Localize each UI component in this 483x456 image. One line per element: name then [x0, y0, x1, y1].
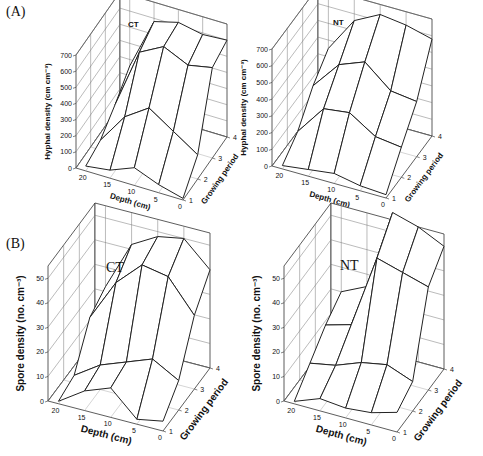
depth-tick-label: 15 — [103, 181, 111, 188]
z-tick-label: 0 — [68, 165, 72, 172]
depth-tick-label: 5 — [132, 427, 136, 434]
gp-tick-label: 2 — [419, 408, 423, 415]
z-tick-label: 200 — [60, 132, 72, 139]
z-tick-label: 30 — [36, 324, 44, 331]
figure-canvas: 0100200300400500600700201510501234Hyphal… — [0, 0, 483, 456]
gp-tick-label: 1 — [403, 429, 407, 436]
gp-tick-label: 2 — [185, 407, 189, 414]
depth-tick-label: 20 — [79, 174, 87, 181]
surface-plot-a-nt: 0100200300400500600700201510501234Hyphal… — [239, 0, 445, 210]
depth-tick-label: 0 — [392, 435, 396, 442]
z-axis-title: Hyphal density (cm cm⁻³) — [43, 63, 52, 160]
gp-tick-label: 1 — [392, 195, 396, 202]
depth-tick-label: 10 — [104, 420, 112, 427]
z-tick-label: 0 — [276, 398, 280, 405]
z-tick-label: 0 — [264, 163, 268, 170]
depth-tick-label: 0 — [158, 434, 162, 441]
gp-tick-label: 3 — [218, 155, 222, 162]
surface-plot-b-ct: 01020304050201510501234Spore density (no… — [15, 203, 230, 447]
gp-tick-label: 4 — [233, 134, 237, 141]
z-tick-label: 20 — [272, 348, 280, 355]
depth-tick-label: 10 — [127, 188, 135, 195]
treatment-label: NT — [340, 258, 359, 273]
z-tick-label: 300 — [256, 112, 268, 119]
surface-plot-b-nt: 01020304050201510501234Spore density (no… — [251, 203, 464, 447]
gp-tick-label: 3 — [434, 387, 438, 394]
depth-tick-label: 5 — [355, 194, 359, 201]
z-tick-label: 600 — [60, 68, 72, 75]
z-tick-label: 40 — [272, 299, 280, 306]
gp-tick-label: 3 — [423, 154, 427, 161]
z-tick-label: 400 — [256, 96, 268, 103]
depth-tick-label: 10 — [339, 421, 347, 428]
z-tick-label: 10 — [36, 373, 44, 380]
depth-tick-label: 5 — [366, 428, 370, 435]
gp-tick-label: 1 — [189, 197, 193, 204]
z-axis-title: Spore density (no. cm⁻³) — [15, 275, 26, 391]
z-tick-label: 10 — [272, 373, 280, 380]
depth-tick-label: 20 — [287, 407, 295, 414]
depth-tick-label: 20 — [52, 407, 60, 414]
depth-tick-label: 20 — [275, 172, 283, 179]
gp-tick-label: 1 — [169, 428, 173, 435]
gp-tick-label: 4 — [216, 365, 220, 372]
z-tick-label: 100 — [256, 146, 268, 153]
depth-tick-label: 15 — [313, 414, 321, 421]
z-tick-label: 40 — [36, 299, 44, 306]
z-tick-label: 700 — [256, 46, 268, 53]
treatment-label: CT — [128, 20, 139, 29]
z-tick-label: 300 — [60, 116, 72, 123]
depth-tick-label: 0 — [178, 203, 182, 210]
treatment-label: CT — [106, 260, 124, 275]
z-tick-label: 400 — [60, 100, 72, 107]
treatment-label: NT — [333, 18, 344, 27]
z-axis-title: Spore density (no. cm⁻³) — [251, 275, 262, 391]
gp-tick-label: 4 — [438, 133, 442, 140]
depth-tick-label: 15 — [78, 414, 86, 421]
z-tick-label: 500 — [256, 79, 268, 86]
gp-tick-label: 2 — [407, 174, 411, 181]
depth-tick-label: 10 — [327, 186, 335, 193]
z-tick-label: 700 — [60, 52, 72, 59]
z-tick-label: 30 — [272, 324, 280, 331]
z-tick-label: 500 — [60, 84, 72, 91]
z-tick-label: 50 — [272, 275, 280, 282]
depth-tick-label: 0 — [381, 201, 385, 208]
surface-plot-a-ct: 0100200300400500600700201510501234Hyphal… — [43, 0, 241, 212]
z-tick-label: 20 — [36, 348, 44, 355]
z-axis-title: Hyphal density (cm cm⁻³) — [239, 59, 248, 156]
z-tick-label: 0 — [40, 398, 44, 405]
z-tick-label: 200 — [256, 129, 268, 136]
z-tick-label: 100 — [60, 148, 72, 155]
z-tick-label: 50 — [36, 275, 44, 282]
gp-tick-label: 4 — [450, 366, 454, 373]
depth-tick-label: 15 — [301, 179, 309, 186]
z-tick-label: 600 — [256, 62, 268, 69]
gp-tick-label: 3 — [200, 386, 204, 393]
depth-tick-label: 5 — [154, 196, 158, 203]
gp-tick-label: 2 — [204, 176, 208, 183]
